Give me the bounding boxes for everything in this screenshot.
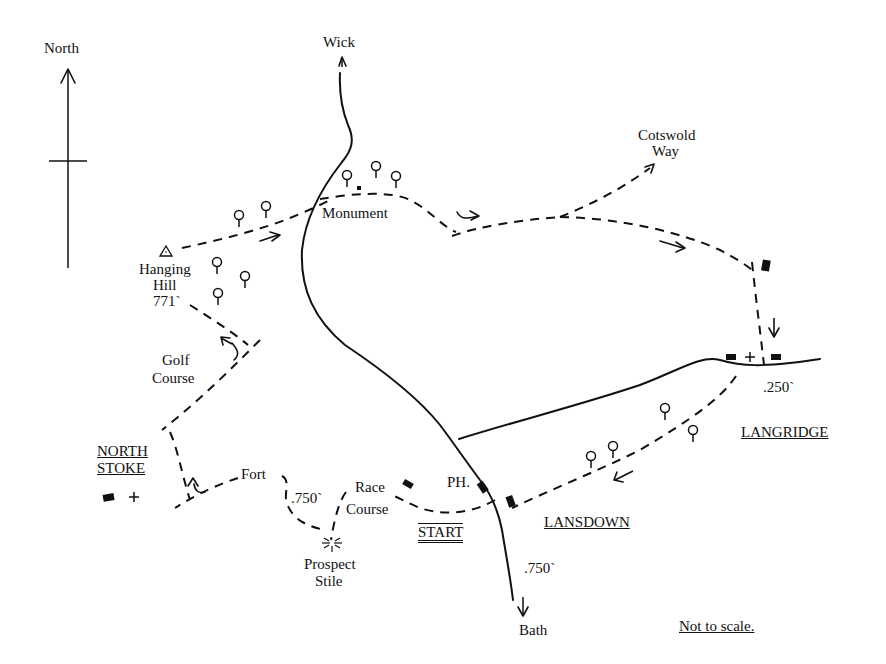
place-label-race: Race [355, 479, 385, 495]
height-label-fort: .750` [291, 490, 322, 506]
footpath-to-fork [452, 217, 560, 236]
compass-label: North [44, 40, 79, 56]
tree-icon [213, 162, 698, 469]
place-label-stoke: STOKE [97, 460, 145, 476]
height-label-hanging-hill: 771` [153, 293, 181, 309]
place-label-cotswold: Cotswold [638, 127, 696, 143]
place-label-fort: Fort [241, 466, 266, 482]
footpath-langridge-lansdown [512, 376, 736, 508]
place-label-pub: PH. [447, 474, 470, 490]
place-label-golf-course: Course [152, 370, 195, 386]
place-label-race-course: Course [346, 501, 389, 517]
north-arrow-icon [49, 69, 87, 268]
place-label-golf: Golf [162, 352, 190, 368]
footpath-cotswold-way [560, 168, 650, 217]
footpath-race-prospect [331, 492, 346, 540]
place-label-monument: Monument [322, 205, 388, 221]
height-label-bath-road: .750` [524, 560, 555, 576]
triangle-trig-point-icon [160, 246, 172, 256]
place-label-langridge: LANGRIDGE [741, 424, 829, 440]
height-label-langridge: .250` [763, 379, 794, 395]
road-wick-bath [302, 73, 513, 600]
bath-arrow-icon [518, 597, 528, 616]
place-label-prospect: Prospect [304, 556, 356, 572]
viewpoint-star-icon [322, 538, 342, 552]
route-map [0, 0, 886, 664]
place-label-lansdown: LANSDOWN [544, 514, 630, 530]
footpath-down-langridge [752, 262, 764, 365]
footpath-hill-to-golf [190, 305, 248, 345]
start-label: START [418, 523, 463, 543]
place-label-north: NORTH [97, 443, 148, 459]
place-label-hill: Hill [153, 277, 176, 293]
scale-note: Not to scale. [679, 618, 754, 634]
footpath-north-stoke [170, 432, 190, 500]
place-label-hanging: Hanging [139, 261, 191, 277]
direction-arrow-icon [188, 211, 779, 493]
place-label-bath: Bath [519, 622, 547, 638]
footpath-start [394, 496, 495, 513]
place-label-wick: Wick [323, 34, 355, 50]
place-label-way: Way [652, 143, 679, 159]
place-label-stile: Stile [315, 573, 343, 589]
footpath-to-langridge [560, 217, 752, 270]
